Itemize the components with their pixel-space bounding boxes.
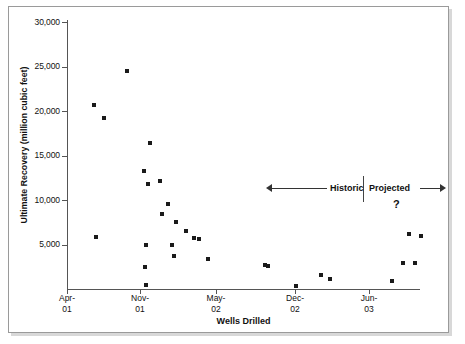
x-tick-label: Dec-02 bbox=[265, 293, 325, 314]
scatter-point bbox=[419, 234, 423, 238]
scatter-point bbox=[206, 257, 210, 261]
y-tick-label-wrap: 15,000 bbox=[0, 150, 60, 161]
projected-arrow-line bbox=[420, 188, 442, 189]
chart-frame bbox=[8, 6, 449, 333]
y-tick-mark bbox=[62, 111, 68, 112]
y-tick-mark bbox=[62, 22, 68, 23]
y-tick-label-wrap: 10,000 bbox=[0, 195, 60, 206]
y-tick-mark bbox=[62, 245, 68, 246]
scatter-point bbox=[390, 279, 394, 283]
y-tick-mark bbox=[62, 200, 68, 201]
scatter-point bbox=[144, 243, 148, 247]
scatter-point bbox=[192, 236, 196, 240]
historic-arrow-head-icon bbox=[266, 184, 272, 192]
projected-arrow-head-icon bbox=[440, 184, 446, 192]
scatter-point bbox=[148, 141, 152, 145]
x-tick-label: May-02 bbox=[186, 293, 246, 314]
question-mark-annotation: ? bbox=[393, 198, 400, 210]
y-tick-label-wrap: 5,000 bbox=[0, 239, 60, 250]
scatter-point bbox=[143, 265, 147, 269]
y-tick-mark bbox=[62, 156, 68, 157]
y-tick-label: 20,000 bbox=[4, 106, 60, 116]
scatter-point bbox=[146, 182, 150, 186]
scatter-point bbox=[197, 237, 201, 241]
scatter-point bbox=[407, 232, 411, 236]
scatter-point bbox=[328, 277, 332, 281]
x-axis-line bbox=[67, 289, 420, 290]
scatter-point bbox=[294, 284, 298, 288]
historic-arrow-line bbox=[271, 188, 327, 189]
scatter-point bbox=[144, 283, 148, 287]
x-tick-label: Apr-01 bbox=[37, 293, 97, 314]
scatter-point bbox=[102, 116, 106, 120]
y-tick-label: 30,000 bbox=[4, 17, 60, 27]
scatter-point bbox=[319, 273, 323, 277]
y-tick-label: 10,000 bbox=[4, 195, 60, 205]
y-tick-label: 5,000 bbox=[4, 239, 60, 249]
y-tick-mark bbox=[62, 67, 68, 68]
y-tick-label-wrap: 25,000 bbox=[0, 61, 60, 72]
scatter-point bbox=[184, 229, 188, 233]
scatter-point bbox=[142, 169, 146, 173]
scatter-point bbox=[158, 179, 162, 183]
chart-figure: Ultimate Recovery (million cubic feet) W… bbox=[0, 0, 465, 344]
scatter-point bbox=[92, 103, 96, 107]
projected-label: Projected bbox=[369, 183, 410, 193]
scatter-point bbox=[266, 264, 270, 268]
scatter-point bbox=[174, 220, 178, 224]
historic-label: Historic bbox=[330, 183, 364, 193]
scatter-point bbox=[125, 69, 129, 73]
scatter-point bbox=[166, 202, 170, 206]
scatter-point bbox=[160, 212, 164, 216]
y-tick-label: 15,000 bbox=[4, 150, 60, 160]
x-tick-label: Nov-01 bbox=[110, 293, 170, 314]
scatter-point bbox=[172, 254, 176, 258]
x-axis-title: Wells Drilled bbox=[67, 316, 420, 326]
scatter-point bbox=[170, 243, 174, 247]
scatter-point bbox=[401, 261, 405, 265]
y-tick-label: 25,000 bbox=[4, 61, 60, 71]
x-tick-label: Jun-03 bbox=[339, 293, 399, 314]
scatter-point bbox=[94, 235, 98, 239]
scatter-point bbox=[413, 261, 417, 265]
y-tick-label-wrap: 20,000 bbox=[0, 106, 60, 117]
y-tick-label-wrap: 30,000 bbox=[0, 17, 60, 28]
